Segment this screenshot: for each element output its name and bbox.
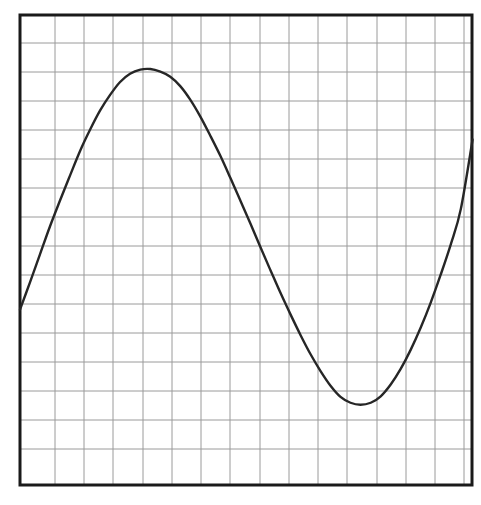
page-root xyxy=(0,0,481,505)
plot-background xyxy=(20,15,472,485)
waveform-chart xyxy=(0,0,481,505)
figure-frame xyxy=(0,0,481,505)
